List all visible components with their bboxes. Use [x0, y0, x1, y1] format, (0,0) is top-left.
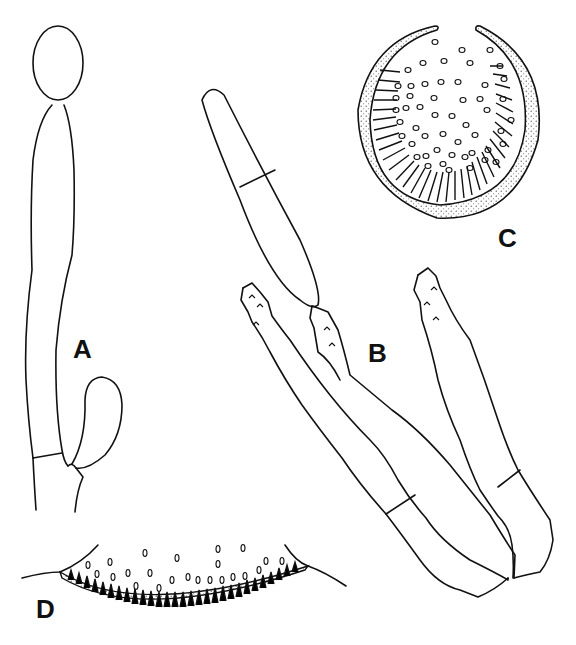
panel-label-c: C: [498, 225, 517, 251]
figure-drawing: [0, 0, 576, 645]
panel-a-drawing: [26, 26, 122, 512]
panel-label-d: D: [36, 596, 55, 622]
panel-d-drawing: [22, 545, 346, 608]
panel-c-drawing: [358, 26, 539, 218]
palisade-layer: [373, 66, 513, 202]
panel-label-b: B: [368, 340, 387, 366]
spores: [393, 40, 514, 173]
panel-label-a: A: [73, 336, 92, 362]
